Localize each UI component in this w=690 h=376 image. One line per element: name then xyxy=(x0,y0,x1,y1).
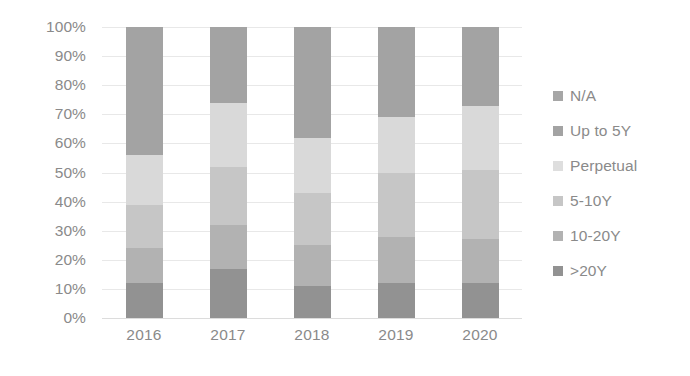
bar-segment-10-20y-2016[interactable] xyxy=(126,248,163,283)
bar-segment-5-10y-2019[interactable] xyxy=(378,173,415,237)
bar-segment-10-20y-2018[interactable] xyxy=(294,245,331,286)
bar-segment-10-20y-2019[interactable] xyxy=(378,237,415,284)
bar-stack xyxy=(126,27,163,318)
y-tick-label: 30% xyxy=(55,222,86,240)
stacked-bar-chart: 100%90%80%70%60%50%40%30%20%10%0% 201620… xyxy=(0,0,690,376)
y-tick-label: 90% xyxy=(55,47,86,65)
bar-segment--20y-2017[interactable] xyxy=(210,269,247,318)
legend-item-up-to-5y[interactable]: Up to 5Y xyxy=(553,113,685,148)
plot-area xyxy=(102,27,522,318)
y-tick-label: 20% xyxy=(55,251,86,269)
x-tick-label-2017: 2017 xyxy=(188,326,268,344)
y-tick-label: 50% xyxy=(55,164,86,182)
legend-label: 5-10Y xyxy=(570,192,612,210)
legend-item-perpetual[interactable]: Perpetual xyxy=(553,148,685,183)
bar-segment--20y-2019[interactable] xyxy=(378,283,415,318)
bar-segment-up-to-5y-2019[interactable] xyxy=(378,27,415,117)
bar-stack xyxy=(210,27,247,318)
bar-segment-perpetual-2019[interactable] xyxy=(378,117,415,172)
legend-swatch-up-to-5y xyxy=(553,126,563,136)
legend-item-n-a[interactable]: N/A xyxy=(553,78,685,113)
bar-segment-up-to-5y-2020[interactable] xyxy=(462,27,499,106)
bar-group-2017[interactable] xyxy=(210,27,247,318)
y-tick-label: 60% xyxy=(55,134,86,152)
legend-swatch-na xyxy=(553,91,563,101)
legend-item-5-10y[interactable]: 5-10Y xyxy=(553,183,685,218)
bar-segment-up-to-5y-2016[interactable] xyxy=(126,27,163,155)
bar-group-2016[interactable] xyxy=(126,27,163,318)
y-tick-label: 100% xyxy=(46,18,86,36)
bar-group-2020[interactable] xyxy=(462,27,499,318)
legend-label: N/A xyxy=(570,87,596,105)
bar-segment-5-10y-2017[interactable] xyxy=(210,167,247,225)
x-tick-label-2020: 2020 xyxy=(440,326,520,344)
bar-group-2018[interactable] xyxy=(294,27,331,318)
x-tick-label-2019: 2019 xyxy=(356,326,436,344)
y-tick-label: 10% xyxy=(55,280,86,298)
bar-segment-5-10y-2020[interactable] xyxy=(462,170,499,240)
bar-segment-perpetual-2020[interactable] xyxy=(462,106,499,170)
bar-segment--20y-2018[interactable] xyxy=(294,286,331,318)
x-axis: 20162017201820192020 xyxy=(102,326,522,356)
legend-swatch-5-10y xyxy=(553,196,563,206)
legend-item-10-20y[interactable]: 10-20Y xyxy=(553,218,685,253)
bar-segment-10-20y-2017[interactable] xyxy=(210,225,247,269)
bar-segment-perpetual-2018[interactable] xyxy=(294,138,331,193)
bar-segment-5-10y-2018[interactable] xyxy=(294,193,331,245)
y-axis: 100%90%80%70%60%50%40%30%20%10%0% xyxy=(0,27,96,318)
chart-legend: N/AUp to 5YPerpetual5-10Y10-20Y>20Y xyxy=(553,78,685,288)
x-tick-label-2016: 2016 xyxy=(104,326,184,344)
legend-label: Perpetual xyxy=(570,157,637,175)
bar-stack xyxy=(462,27,499,318)
y-tick-label: 70% xyxy=(55,105,86,123)
legend-swatch-10-20y xyxy=(553,231,563,241)
bar-segment-perpetual-2017[interactable] xyxy=(210,103,247,167)
bar-segment-10-20y-2020[interactable] xyxy=(462,239,499,283)
bar-segment--20y-2016[interactable] xyxy=(126,283,163,318)
legend-label: >20Y xyxy=(570,262,607,280)
bar-group-2019[interactable] xyxy=(378,27,415,318)
bar-segment-perpetual-2016[interactable] xyxy=(126,155,163,204)
bar-stack xyxy=(294,27,331,318)
gridline-0 xyxy=(102,318,522,319)
bar-segment-up-to-5y-2017[interactable] xyxy=(210,27,247,103)
x-tick-label-2018: 2018 xyxy=(272,326,352,344)
bar-segment-up-to-5y-2018[interactable] xyxy=(294,27,331,138)
legend-item--20y[interactable]: >20Y xyxy=(553,253,685,288)
y-tick-label: 80% xyxy=(55,76,86,94)
legend-label: 10-20Y xyxy=(570,227,621,245)
y-tick-label: 40% xyxy=(55,193,86,211)
legend-swatch-perpetual xyxy=(553,161,563,171)
legend-label: Up to 5Y xyxy=(570,122,631,140)
bar-segment-5-10y-2016[interactable] xyxy=(126,205,163,249)
bar-segment--20y-2020[interactable] xyxy=(462,283,499,318)
bar-stack xyxy=(378,27,415,318)
y-tick-label: 0% xyxy=(63,309,86,327)
legend-swatch-gt-20y xyxy=(553,266,563,276)
